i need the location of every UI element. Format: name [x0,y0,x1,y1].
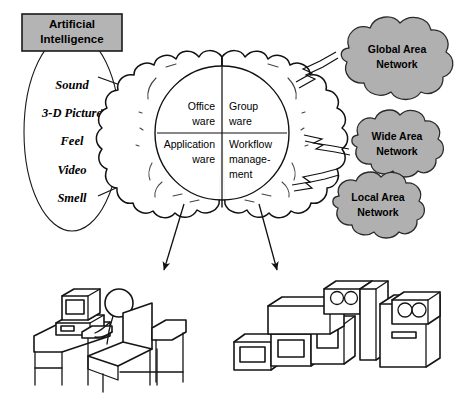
ai-box-line1: Artificial [49,18,95,30]
cpu-slot [61,326,74,331]
network-cloud-global-line2: Network [376,58,418,70]
ai-box-line2: Intelligence [40,33,103,45]
sense-label-sound: Sound [55,78,89,92]
monitor-screen [66,300,84,314]
network-cloud-global-line1: Global Area [368,43,427,55]
quadrant-office-ware-line2: ware [191,115,215,127]
network-cloud-wide-line1: Wide Area [372,130,423,142]
sense-label-3d-picture: 3-D Picture [41,106,103,120]
network-cloud-wide-shape [352,110,444,177]
network-cloud-global: Global Area Network [341,17,453,100]
quadrant-workflow-line3: ment [229,168,252,180]
sense-label-feel: Feel [60,134,84,148]
brain-cloud: Office ware Group ware Application ware … [96,51,347,218]
network-cloud-wide-line2: Network [376,145,418,157]
server-unit-1-panel [240,347,265,362]
network-cloud-wide: Wide Area Network [352,110,444,177]
tape-cabinet-2-slot [392,332,416,338]
sense-label-video: Video [57,163,86,177]
quadrant-group-ware-line1: Group [229,100,258,112]
illustration-workstation [34,289,186,392]
server-unit-2-panel [278,340,304,357]
quadrant-group-ware-line2: ware [228,115,252,127]
illustration-servers [234,281,440,370]
quadrant-application-ware-line2: ware [191,153,215,165]
quadrant-workflow-line1: Workflow [229,138,272,150]
quadrant-workflow-line2: manage- [229,153,271,165]
network-cloud-local-line2: Network [357,206,399,218]
quadrant-office-ware-line1: Office [188,100,215,112]
sense-label-smell: Smell [57,191,87,205]
side-table [152,320,186,340]
network-cloud-local: Local Area Network [333,172,425,238]
ai-box: Artificial Intelligence [22,14,122,51]
diagram-root: Sound 3-D Picture Feel Video Smell Artif… [0,0,460,406]
network-cloud-local-line1: Local Area [351,191,404,203]
quadrant-application-ware-line1: Application [164,138,216,150]
